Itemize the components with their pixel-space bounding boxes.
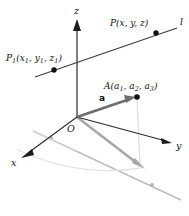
labels-group: P1(x1, y1, z1) P(x, y, z) A(a1, a2, a3) …	[5, 5, 183, 168]
projection-group	[18, 99, 181, 200]
axis-x-label: x	[11, 157, 17, 168]
axis-z-label: z	[73, 5, 80, 16]
axis-z-arrowhead	[73, 19, 81, 31]
point-p-label: P(x, y, z)	[109, 18, 149, 28]
axis-x-arrowhead	[21, 149, 34, 158]
point-p1-dot	[51, 67, 56, 72]
line-l-label: l	[180, 16, 183, 27]
vector-a-projection	[77, 117, 138, 164]
axis-y-line	[77, 117, 166, 141]
point-p-dot	[153, 30, 158, 35]
axis-y-arrowhead	[161, 138, 172, 144]
vector-line-3d-figure: P1(x1, y1, z1) P(x, y, z) A(a1, a2, a3) …	[0, 0, 189, 216]
origin-label: O	[67, 123, 75, 134]
figure-canvas: P1(x1, y1, z1) P(x, y, z) A(a1, a2, a3) …	[0, 0, 189, 216]
point-a-dot	[134, 94, 140, 100]
vector-a-group	[77, 94, 140, 117]
line-l-projection-dot-p	[150, 183, 154, 187]
projection-helper-stub	[33, 131, 77, 151]
vector-a-arrowhead	[124, 95, 136, 103]
vector-a-label: a	[99, 93, 105, 103]
point-p1-label: P1(x1, y1, z1)	[5, 53, 63, 65]
point-a-vertical-drop	[137, 99, 140, 166]
point-a-label: A(a1, a2, a3)	[103, 81, 158, 93]
line-l-group	[35, 28, 177, 77]
axis-y-label: y	[175, 140, 182, 151]
